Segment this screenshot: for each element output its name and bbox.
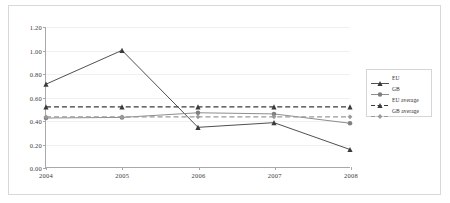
x-tick-mark	[351, 167, 352, 170]
data-point-marker	[196, 110, 201, 115]
y-tick-label: 1.20	[30, 24, 42, 31]
legend-item-gb-average[interactable]: GB average	[370, 106, 429, 116]
chart-figure: 0.000.200.400.600.801.001.20 20042005200…	[0, 0, 450, 203]
data-point-marker	[348, 114, 353, 119]
series-eu	[43, 48, 352, 152]
data-point-marker	[378, 114, 383, 119]
legend-label: GB average	[392, 107, 419, 116]
plot-area: 0.000.200.400.600.801.001.20 20042005200…	[45, 27, 350, 168]
y-tick-label: 0.40	[30, 118, 42, 125]
x-tick-mark	[199, 167, 200, 170]
data-point-marker	[119, 48, 124, 53]
x-tick-mark	[122, 167, 123, 170]
y-tick-label: 0.80	[30, 71, 42, 78]
legend-swatch-icon	[370, 107, 390, 116]
data-point-marker	[196, 114, 201, 119]
y-tick-label: 0.00	[30, 165, 42, 172]
legend-label: EU	[392, 74, 400, 83]
legend-item-eu[interactable]: EU	[370, 73, 429, 83]
x-tick-label: 2008	[344, 172, 358, 179]
x-tick-mark	[275, 167, 276, 170]
legend-item-gb[interactable]: GB	[370, 84, 429, 94]
y-tick-label: 0.20	[30, 141, 42, 148]
x-tick-label: 2007	[268, 172, 282, 179]
legend-swatch-icon	[370, 85, 390, 94]
y-tick-label: 0.60	[30, 94, 42, 101]
data-point-marker	[43, 82, 48, 87]
data-point-marker	[348, 121, 353, 126]
data-point-marker	[347, 147, 352, 152]
legend-label: EU average	[392, 96, 419, 105]
x-tick-mark	[46, 167, 47, 170]
y-tick-label: 1.00	[30, 47, 42, 54]
legend-item-eu-average[interactable]: EU average	[370, 95, 429, 105]
chart-legend: EUGBEU averageGB average	[366, 69, 432, 117]
data-point-marker	[347, 104, 352, 109]
x-tick-label: 2005	[115, 172, 129, 179]
series-line	[46, 50, 350, 149]
x-tick-label: 2006	[192, 172, 206, 179]
series-eu-average	[43, 104, 352, 109]
legend-label: GB	[392, 85, 400, 94]
legend-swatch-icon	[370, 74, 390, 83]
series-layer	[46, 27, 350, 167]
x-tick-label: 2004	[39, 172, 53, 179]
legend-swatch-icon	[370, 96, 390, 105]
series-gb-average	[44, 114, 353, 119]
